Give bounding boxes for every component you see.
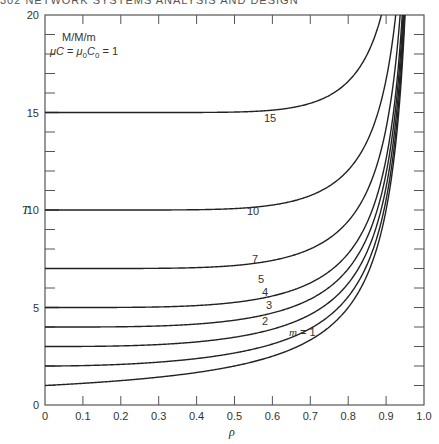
axes: 00.10.20.30.40.50.60.70.80.91.005101520 [27,9,432,422]
curve-m-7 [45,0,403,269]
curve-label-m-7: 7 [252,253,258,265]
annotation-model: M/M/m [62,31,96,43]
x-tick-label: 0.6 [265,410,280,422]
x-tick-label: 1.0 [416,410,431,422]
x-tick-label: 0.4 [189,410,204,422]
curve-label-m-5: 5 [258,273,264,285]
curve-label-m-2: 2 [262,315,268,327]
curve-label-m-10: 10 [247,205,259,217]
x-tick-label: 0.2 [113,410,128,422]
x-tick-label: 0.5 [227,410,242,422]
curve-label-m-3: 3 [266,299,272,311]
x-tick-label: 0.8 [341,410,356,422]
x-tick-label: 0.9 [378,410,393,422]
x-tick-label: 0.1 [75,410,90,422]
curve-label-m-1: m = 1 [289,326,316,338]
curve-label-m-15: 15 [264,112,276,124]
x-tick-label: 0 [42,410,48,422]
x-axis-title: ρ [228,425,235,439]
y-tick-label: 15 [27,107,39,119]
y-tick-label: 20 [27,9,39,21]
y-tick-label: 5 [33,302,39,314]
y-tick-label: 0 [33,399,39,411]
curve-label-m-4: 4 [262,286,268,298]
x-tick-label: 0.3 [151,410,166,422]
curve-labels: m = 1234571015 [247,112,316,338]
x-tick-label: 0.7 [303,410,318,422]
annotation: M/M/m μC = μ0C0 = 1 [49,31,118,60]
chart: 00.10.20.30.40.50.60.70.80.91.005101520 … [0,0,439,444]
curve-m-10 [45,0,400,210]
annotation-formula: μC = μ0C0 = 1 [49,45,118,60]
